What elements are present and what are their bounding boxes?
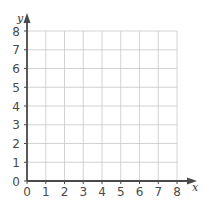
x-tick-label: 0 [23, 185, 31, 199]
y-axis-label: y [16, 12, 24, 25]
x-tick-label: 8 [173, 185, 181, 199]
y-tick-label: 5 [12, 81, 20, 95]
y-tick-label: 1 [12, 156, 20, 170]
y-tick-label: 6 [12, 62, 20, 76]
y-tick-label: 7 [12, 43, 20, 57]
coordinate-grid-chart: 012345678012345678 x y [0, 0, 208, 206]
x-tick-label: 6 [136, 185, 144, 199]
y-tick-label: 2 [12, 137, 20, 151]
y-tick-label: 0 [12, 175, 20, 189]
grid-lines [27, 31, 177, 181]
x-tick-label: 1 [42, 185, 50, 199]
x-tick-label: 5 [117, 185, 125, 199]
y-tick-label: 8 [12, 25, 20, 39]
x-tick-label: 3 [79, 185, 87, 199]
tick-labels: 012345678012345678 [12, 25, 180, 200]
x-axis-label: x [192, 181, 199, 194]
x-tick-label: 4 [98, 185, 106, 199]
axes [24, 13, 198, 185]
x-tick-label: 2 [61, 185, 69, 199]
x-tick-label: 7 [154, 185, 162, 199]
y-axis-arrow-icon [24, 13, 31, 23]
y-tick-label: 3 [12, 118, 20, 132]
y-tick-label: 4 [12, 100, 20, 114]
